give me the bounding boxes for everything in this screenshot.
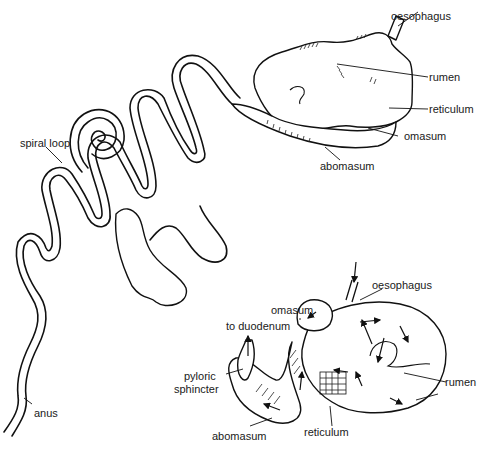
label-to-duodenum: to duodenum (226, 320, 290, 332)
label-abomasum-lower: abomasum (212, 430, 266, 442)
ruminant-digestive-tract-diagram: oesophagus rumen reticulum omasum abomas… (0, 0, 485, 457)
label-pyloric-sphincter-1: pyloric (184, 370, 216, 382)
leader-reticulum-lower (330, 406, 332, 426)
label-spiral-loop: spiral loop (20, 137, 70, 149)
leader-anus (24, 398, 32, 404)
label-omasum-lower: omasum (271, 304, 313, 316)
label-rumen-lower: rumen (445, 376, 476, 388)
label-reticulum-upper: reticulum (429, 103, 474, 115)
label-reticulum-lower: reticulum (304, 426, 349, 438)
upper-rumen-outline (254, 33, 413, 131)
leader-spiral-loop (46, 147, 62, 163)
label-abomasum-upper: abomasum (320, 160, 374, 172)
caecum-pouch (116, 209, 187, 306)
label-omasum-upper: omasum (404, 130, 446, 142)
leader-abomasum-lower (250, 418, 272, 426)
diagram-drawing (0, 0, 485, 457)
label-pyloric-sphincter-2: sphincter (174, 383, 219, 395)
leader-abomasum-upper (325, 147, 340, 160)
label-oesophagus-lower: oesophagus (372, 279, 432, 291)
upper-stomach (232, 16, 413, 148)
label-oesophagus-upper: oesophagus (391, 10, 451, 22)
label-anus: anus (34, 407, 58, 419)
label-rumen-upper: rumen (429, 71, 460, 83)
